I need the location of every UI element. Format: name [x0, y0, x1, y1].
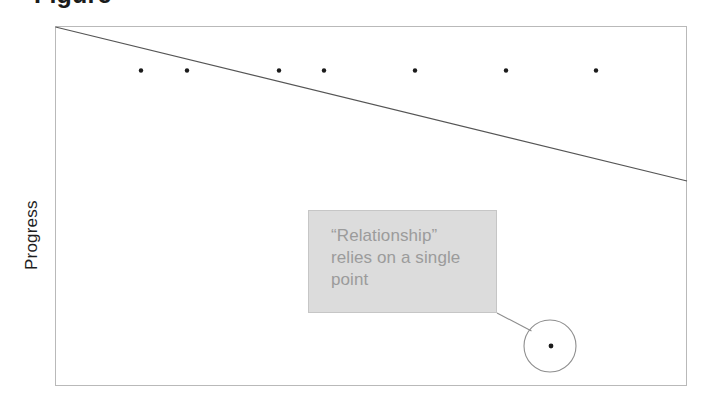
callout-text: “Relationship” relies on a single point: [331, 225, 496, 291]
callout-line-3: point: [331, 269, 496, 291]
figure-root: Figure Progress “Relationship” relies on: [0, 0, 702, 401]
figure-caption-text: Figure: [34, 0, 112, 9]
callout-line-1: “Relationship”: [331, 225, 496, 247]
plot-area-frame: [55, 26, 687, 386]
callout-line-2: relies on a single: [331, 247, 496, 269]
y-axis-label: Progress: [21, 110, 43, 270]
figure-caption-clipped: Figure: [0, 0, 702, 12]
callout-box: “Relationship” relies on a single point: [308, 210, 497, 313]
